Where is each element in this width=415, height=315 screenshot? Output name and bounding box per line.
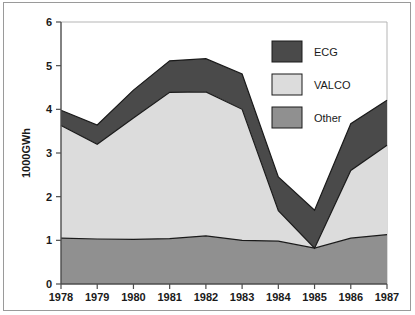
x-tick-label-1987: 1987 bbox=[375, 291, 399, 303]
y-tick-label: 1 bbox=[46, 234, 52, 246]
legend-swatch-other bbox=[272, 107, 302, 128]
legend-swatch-valco bbox=[272, 74, 302, 95]
y-tick-label: 6 bbox=[46, 16, 52, 28]
y-tick-label: 4 bbox=[46, 103, 53, 115]
x-tick-label-1985: 1985 bbox=[302, 291, 326, 303]
x-tick-label-1982: 1982 bbox=[194, 291, 218, 303]
y-tick-label: 0 bbox=[46, 278, 52, 290]
x-tick-label-1984: 1984 bbox=[266, 291, 291, 303]
legend-label-other: Other bbox=[314, 112, 342, 124]
legend-label-valco: VALCO bbox=[314, 79, 351, 91]
y-tick-label: 5 bbox=[46, 60, 52, 72]
chart-figure: 0123456 19781979198019811982198319841985… bbox=[0, 0, 415, 315]
stacked-area-chart: 0123456 19781979198019811982198319841985… bbox=[0, 0, 415, 315]
x-tick-label-1983: 1983 bbox=[230, 291, 254, 303]
x-tick-label-1979: 1979 bbox=[85, 291, 109, 303]
x-tick-label-1986: 1986 bbox=[339, 291, 363, 303]
y-tick-label: 2 bbox=[46, 191, 52, 203]
legend-swatch-ecg bbox=[272, 41, 302, 62]
x-axis-ticks: 1978197919801981198219831984198519861987 bbox=[49, 284, 399, 303]
x-tick-label-1978: 1978 bbox=[49, 291, 73, 303]
y-tick-label: 3 bbox=[46, 147, 52, 159]
y-axis-ticks: 0123456 bbox=[46, 16, 61, 290]
x-tick-label-1981: 1981 bbox=[157, 291, 181, 303]
y-axis-label: 1000GWh bbox=[20, 128, 32, 178]
legend-label-ecg: ECG bbox=[314, 46, 338, 58]
x-tick-label-1980: 1980 bbox=[121, 291, 145, 303]
